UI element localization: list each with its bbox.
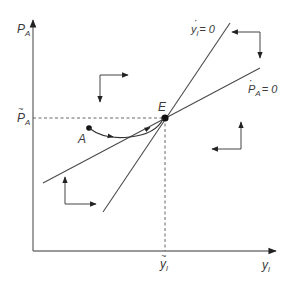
svg-text:·: ·	[249, 75, 252, 86]
direction-arrows-right	[212, 122, 241, 149]
pa-dot-zero-label: PA= 0 ·	[248, 75, 278, 98]
x-axis-label: yl	[261, 258, 270, 274]
equilibrium-yl-tick-accent: ~	[161, 251, 166, 261]
yl-dot-zero-label: yl= 0 ·	[190, 15, 216, 38]
direction-arrows-lower-left	[65, 177, 96, 204]
svg-text:PA= 0: PA= 0	[248, 83, 278, 98]
trajectory-arrow-1	[108, 136, 113, 137]
trajectory-curve	[89, 119, 163, 138]
start-point-label: A	[77, 132, 86, 146]
svg-text:·: ·	[194, 15, 197, 26]
pa-dot-zero-locus	[43, 68, 260, 183]
equilibrium-label: E	[158, 100, 167, 114]
equilibrium-pa-tick-accent: ~	[18, 104, 23, 114]
phase-diagram: PA yl PA ~ yl ~ E A yl= 0 · PA= 0 ·	[0, 0, 288, 287]
y-axis-label: PA	[17, 22, 30, 38]
direction-arrows-upper-right	[232, 32, 260, 58]
direction-arrows-upper-left	[100, 75, 128, 102]
equilibrium-guides	[33, 118, 165, 251]
